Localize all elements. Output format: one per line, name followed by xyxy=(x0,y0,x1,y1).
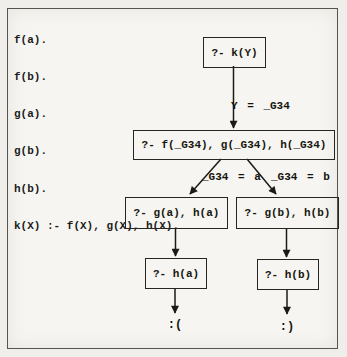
program-line: f(a). xyxy=(14,34,179,46)
program-line: f(b). xyxy=(14,71,179,83)
node-leaf-ha: ?- h(a) xyxy=(145,258,207,289)
binding-label-root: Y = _G34 xyxy=(231,100,290,112)
success-mark: :) xyxy=(272,320,302,334)
binding-label-left: _G34 = a xyxy=(202,171,261,183)
program-line: h(b). xyxy=(14,183,179,195)
sld-tree-figure: f(a). f(b). g(a). g(b). h(b). k(X) :- f(… xyxy=(0,0,347,357)
program-line: g(a). xyxy=(14,108,179,120)
failure-mark: :( xyxy=(160,318,190,332)
binding-label-right: _G34 = b xyxy=(271,171,330,183)
node-goal-fgh: ?- f(_G34), g(_G34), h(_G34) xyxy=(133,130,335,160)
node-leaf-hb: ?- h(b) xyxy=(257,259,319,290)
node-branch-b: ?- g(b), h(b) xyxy=(236,197,339,229)
node-query-k: ?- k(Y) xyxy=(203,37,266,68)
node-branch-a: ?- g(a), h(a) xyxy=(125,197,228,229)
